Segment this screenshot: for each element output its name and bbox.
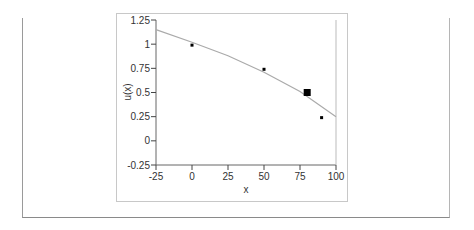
y-tick-label: 0.75 bbox=[131, 63, 151, 74]
x-tick-label: -25 bbox=[149, 171, 164, 182]
y-tick-label: 1.25 bbox=[131, 15, 151, 26]
y-axis-label: u(x) bbox=[122, 83, 133, 100]
x-axis-label: x bbox=[244, 184, 249, 195]
y-tick-label: 1 bbox=[144, 39, 150, 50]
chart: 1.2510.750.50.250-0.25-250255075100 x u(… bbox=[0, 0, 474, 230]
plot-area bbox=[156, 30, 336, 119]
y-tick-label: -0.25 bbox=[127, 160, 150, 171]
data-point bbox=[191, 44, 194, 47]
data-point bbox=[320, 116, 323, 119]
y-tick-label: 0.25 bbox=[131, 111, 151, 122]
x-tick-label: 25 bbox=[222, 171, 234, 182]
fitted-curve bbox=[156, 30, 336, 117]
y-tick-label: 0 bbox=[144, 135, 150, 146]
data-point bbox=[263, 68, 266, 71]
y-tick-label: 0.5 bbox=[136, 87, 150, 98]
axes: 1.2510.750.50.250-0.25-250255075100 bbox=[127, 15, 345, 183]
x-tick-label: 0 bbox=[189, 171, 195, 182]
x-tick-label: 100 bbox=[328, 171, 345, 182]
highlighted-data-point bbox=[304, 89, 311, 96]
x-tick-label: 75 bbox=[294, 171, 306, 182]
x-tick-label: 50 bbox=[258, 171, 270, 182]
